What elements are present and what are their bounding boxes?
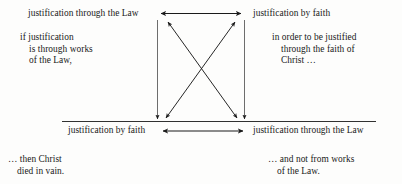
gloss-top-left-line-2: is through works xyxy=(20,44,93,56)
gloss-top-right: in order to be justified through the fai… xyxy=(272,32,357,67)
diagonal-arrow-ne-sw xyxy=(166,22,235,118)
gloss-top-right-line-1: in order to be justified xyxy=(272,32,357,44)
gloss-bottom-right: … and not from works of the Law. xyxy=(268,154,354,177)
node-label-top-left: justification through the Law xyxy=(28,8,139,19)
node-label-bottom-left: justification by faith xyxy=(68,125,145,136)
gloss-bottom-left: … then Christ died in vain. xyxy=(8,154,64,177)
gloss-top-left: if justification is through works of the… xyxy=(20,32,93,67)
gloss-bottom-left-line-1: … then Christ xyxy=(8,154,64,166)
diagonal-arrow-nw-se xyxy=(168,22,237,118)
node-label-bottom-right: justification through the Law xyxy=(253,125,364,136)
gloss-bottom-left-line-2: died in vain. xyxy=(8,166,64,178)
gloss-bottom-right-line-2: of the Law. xyxy=(268,166,354,178)
gloss-top-left-line-1: if justification xyxy=(20,32,93,44)
gloss-top-left-line-3: of the Law, xyxy=(20,55,93,67)
justification-chiasm-diagram: justification through the Law justificat… xyxy=(0,0,402,184)
gloss-top-right-line-2: through the faith of xyxy=(272,44,357,56)
gloss-bottom-right-line-1: … and not from works xyxy=(268,154,354,166)
node-label-top-right: justification by faith xyxy=(253,8,330,19)
gloss-top-right-line-3: Christ … xyxy=(272,55,357,67)
